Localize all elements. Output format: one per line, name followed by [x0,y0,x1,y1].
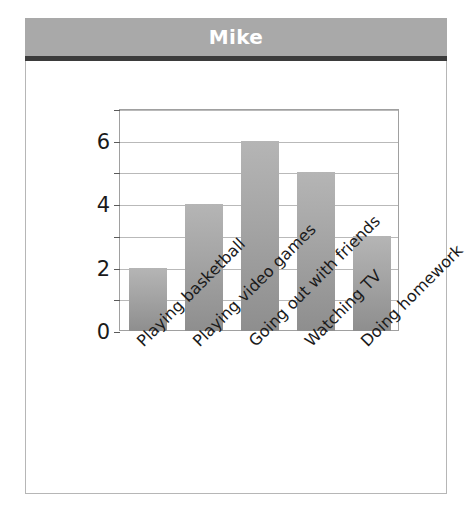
chart-panel: Time (hours) 0246 Playing basketballPlay… [25,61,447,494]
chart-card: Mike Time (hours) 0246 Playing basketbal… [25,18,447,494]
y-axis-tick [114,332,120,333]
y-axis-tick-label: 2 [97,257,110,281]
page-title: Mike [209,27,263,47]
y-axis-tick-label: 6 [97,130,110,154]
y-axis-tick-label: 4 [97,193,110,217]
bar-chart: Time (hours) 0246 Playing basketballPlay… [26,61,448,494]
y-axis-tick-label: 0 [97,320,110,344]
chart-title-bar: Mike [25,18,447,56]
